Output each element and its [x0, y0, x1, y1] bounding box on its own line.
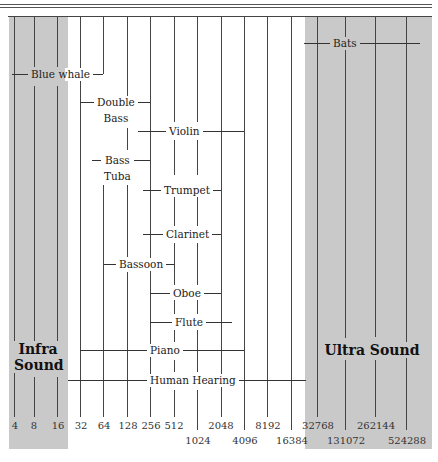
tick-label-8: 8 [31, 420, 37, 432]
range-label-clarinet: Clarinet [163, 228, 212, 241]
tick-label-256: 256 [141, 420, 160, 432]
freq-line-16 [57, 17, 58, 67]
freq-line-512e [174, 300, 175, 314]
range-label-bats: Bats [330, 37, 360, 50]
range-label-double-bass-line2: Bass [97, 112, 135, 125]
tick-label-16384: 16384 [276, 435, 308, 447]
freq-line-128d [127, 272, 128, 417]
range-label-violin: Violin [166, 125, 203, 138]
freq-line-1024e [197, 300, 198, 314]
tick-label-2048: 2048 [208, 420, 233, 432]
ultra-sound-title: Ultra Sound [322, 342, 422, 358]
tick-label-32: 32 [75, 420, 88, 432]
tick-label-524288: 524288 [388, 435, 426, 447]
tick-label-16: 16 [52, 420, 65, 432]
freq-line-512d [174, 243, 175, 285]
range-label-bassoon: Bassoon [116, 258, 166, 271]
range-label-flute: Flute [172, 316, 206, 329]
freq-line-128c [127, 185, 128, 257]
tick-label-64: 64 [98, 420, 111, 432]
tick-label-4: 4 [12, 420, 18, 432]
range-label-bass-tuba-line1: Bass [104, 154, 131, 167]
range-label-trumpet: Trumpet [161, 184, 213, 197]
tick-label-262144: 262144 [357, 420, 395, 432]
freq-line-131072c [345, 360, 346, 430]
freq-line-16b [57, 86, 58, 346]
tick-label-32768: 32768 [302, 420, 334, 432]
freq-line-1024 [197, 17, 198, 122]
top-rule-inner [0, 7, 432, 8]
range-label-double-bass: Double Bass [94, 96, 138, 125]
tick-label-131072: 131072 [327, 435, 365, 447]
tick-label-8192: 8192 [255, 420, 280, 432]
freq-line-8b [34, 86, 35, 346]
freq-line-131072b [345, 50, 346, 338]
range-label-bass-tuba-line2: Tuba [104, 170, 131, 183]
freq-line-16384 [291, 17, 292, 430]
freq-line-128 [127, 17, 128, 97]
range-label-double-bass-line1: Double [97, 96, 135, 109]
range-label-human-hearing: Human Hearing [147, 374, 239, 387]
infra-sound-title: Infra Sound [14, 341, 62, 373]
freq-line-512 [174, 17, 175, 122]
infra-sound-title-line1: Infra [14, 341, 62, 357]
infra-sound-title-line2: Sound [14, 357, 62, 373]
range-label-piano: Piano [147, 344, 183, 357]
freq-line-512f [174, 330, 175, 342]
freq-line-512b [174, 140, 175, 175]
freq-line-8c [34, 377, 35, 417]
range-label-oboe: Oboe [170, 287, 204, 300]
infra-sound-region [9, 17, 68, 449]
freq-line-256 [150, 17, 151, 417]
freq-line-4096 [244, 17, 245, 430]
freq-line-32768 [317, 17, 318, 417]
freq-line-8192 [267, 17, 268, 417]
freq-line-8 [34, 17, 35, 67]
freq-line-64 [103, 17, 104, 74]
freq-line-1024d [197, 243, 198, 285]
freq-line-524288 [406, 17, 407, 430]
freq-line-512c [174, 196, 175, 226]
freq-line-1024g [197, 390, 198, 430]
freq-line-512h [174, 390, 175, 417]
freq-line-1024c [197, 196, 198, 226]
freq-line-1024b [197, 140, 198, 175]
tick-label-1024: 1024 [185, 435, 210, 447]
freq-line-262144 [375, 17, 376, 337]
range-label-blue-whale: Blue whale [28, 68, 93, 81]
freq-line-128b [127, 128, 128, 150]
range-label-bass-tuba: Bass Tuba [101, 154, 134, 183]
tick-label-128: 128 [118, 420, 137, 432]
freq-line-262144b [375, 360, 376, 417]
freq-line-16c [57, 377, 58, 417]
range-line-bats [304, 43, 420, 44]
freq-line-64b [103, 185, 104, 417]
freq-line-1024f [197, 330, 198, 372]
freq-line-131072 [345, 17, 346, 37]
tick-label-512: 512 [164, 420, 183, 432]
freq-line-2048 [221, 17, 222, 417]
freq-line-512g [174, 360, 175, 372]
tick-label-4096: 4096 [232, 435, 257, 447]
top-rule [0, 4, 432, 5]
range-label-blue-whale-text: Blue whale [31, 68, 90, 80]
ultra-sound-region [305, 17, 432, 449]
